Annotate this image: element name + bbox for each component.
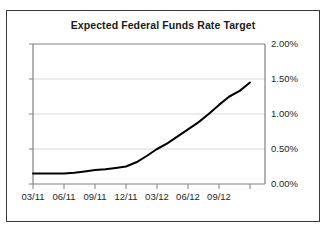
- series-line-expected-fed-funds-rate: [33, 83, 250, 174]
- y-axis-labels: 0.00% 0.50% 1.00% 1.50% 2.00%: [271, 38, 298, 189]
- x-tick-marks: [33, 184, 250, 189]
- x-tick-label-3: 12/11: [114, 191, 137, 202]
- y-tick-label-4: 2.00%: [271, 38, 298, 49]
- x-tick-label-6: 09/12: [207, 191, 231, 202]
- gridlines: [33, 79, 265, 149]
- y-tick-label-1: 0.50%: [271, 143, 298, 154]
- x-tick-label-4: 03/12: [145, 191, 169, 202]
- x-tick-label-1: 06/11: [52, 191, 75, 202]
- x-tick-label-5: 06/12: [176, 191, 200, 202]
- y-tick-label-2: 1.00%: [271, 108, 298, 119]
- line-chart-plot: 0.00% 0.50% 1.00% 1.50% 2.00% 03/11 06/1…: [0, 0, 330, 236]
- x-tick-label-0: 03/11: [21, 191, 44, 202]
- x-axis-labels: 03/11 06/11 09/11 12/11 03/12 06/12 09/1…: [21, 191, 230, 202]
- x-tick-label-2: 09/11: [83, 191, 106, 202]
- y-tick-label-0: 0.00%: [271, 178, 298, 189]
- y-tick-label-3: 1.50%: [271, 73, 298, 84]
